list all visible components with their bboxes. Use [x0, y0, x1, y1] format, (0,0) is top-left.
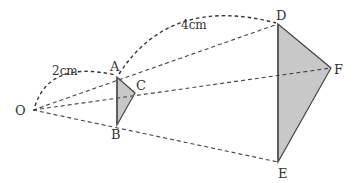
point-label-b: B — [111, 127, 121, 142]
triangle-def — [278, 24, 331, 162]
measure-label-ad: 4cm — [181, 18, 207, 32]
triangle-abc — [117, 77, 135, 125]
point-label-c: C — [136, 78, 146, 93]
measure-label-oa: 2cm — [52, 64, 78, 78]
point-label-o: O — [15, 103, 26, 118]
point-label-a: A — [109, 59, 120, 74]
point-label-f: F — [334, 62, 343, 77]
ray-o-e — [33, 110, 278, 162]
point-label-d: D — [276, 8, 286, 23]
similar-triangles-diagram: 2cm 4cm O A B C D E F — [0, 0, 362, 183]
point-label-e: E — [278, 166, 288, 181]
